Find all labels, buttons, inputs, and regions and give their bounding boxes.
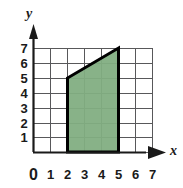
x-axis-label: x xyxy=(169,143,177,158)
y-tick-label-7: 7 xyxy=(20,41,27,56)
y-axis-arrow-icon xyxy=(29,24,38,39)
y-tick-label-2: 2 xyxy=(20,116,27,131)
x-tick-label-5: 5 xyxy=(115,167,122,182)
y-tick-label-6: 6 xyxy=(20,56,27,71)
coordinate-plane-chart: y x 0 1 2 3 4 5 6 7 7 6 5 4 3 2 1 xyxy=(0,0,183,188)
x-tick-label-2: 2 xyxy=(64,167,71,182)
x-tick-label-1: 1 xyxy=(47,167,54,182)
y-tick-label-5: 5 xyxy=(20,71,27,86)
x-tick-label-3: 3 xyxy=(81,167,88,182)
x-axis-arrow-icon xyxy=(148,146,166,159)
x-tick-label-7: 7 xyxy=(149,167,156,182)
y-axis-label: y xyxy=(24,6,33,21)
x-tick-label-4: 4 xyxy=(98,167,106,182)
y-tick-label-4: 4 xyxy=(20,86,28,101)
x-tick-label-6: 6 xyxy=(132,167,139,182)
y-tick-label-1: 1 xyxy=(20,130,27,145)
x-tick-label-0: 0 xyxy=(29,166,38,183)
y-tick-label-3: 3 xyxy=(20,101,27,116)
graph-figure: y x 0 1 2 3 4 5 6 7 7 6 5 4 3 2 1 xyxy=(0,0,183,188)
